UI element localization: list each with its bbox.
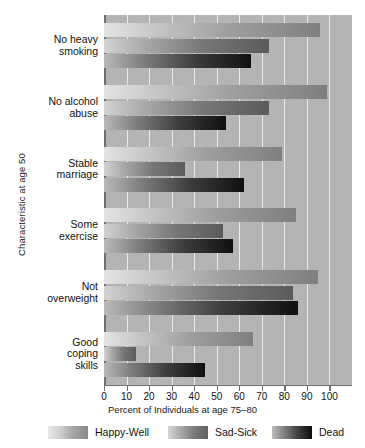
x-tick-label-60: 60 (234, 391, 245, 402)
x-tick-label-50: 50 (211, 391, 222, 402)
bar-group (104, 208, 352, 253)
gridline-90 (307, 15, 308, 385)
bar-group (104, 23, 352, 68)
bar-group (104, 147, 352, 192)
x-tick-label-10: 10 (121, 391, 132, 402)
category-label-line: overweight (10, 293, 98, 305)
y-axis-line (104, 15, 106, 385)
bar-sad-sick (104, 286, 293, 300)
gridline-100 (329, 15, 330, 385)
bar-happy-well (104, 332, 253, 346)
gridline-30 (172, 15, 173, 385)
bar-sad-sick (104, 101, 269, 115)
bar-group (104, 270, 352, 315)
category-label-line: marriage (10, 169, 98, 181)
bar-sad-sick (104, 347, 136, 361)
legend-item-sad-sick[interactable]: Sad-Sick (168, 424, 257, 440)
legend-swatch-sad-sick (168, 426, 208, 439)
bar-happy-well (104, 208, 296, 222)
x-tick-label-90: 90 (301, 391, 312, 402)
x-tick-label-70: 70 (256, 391, 267, 402)
gridline-40 (194, 15, 195, 385)
legend-label: Dead (319, 426, 344, 438)
gridline-60 (239, 15, 240, 385)
x-tick-label-40: 40 (189, 391, 200, 402)
bar-dead (104, 54, 251, 68)
legend-item-dead[interactable]: Dead (272, 424, 344, 440)
legend-item-happy-well[interactable]: Happy-Well (48, 424, 149, 440)
x-axis-title: Percent of Individuals at age 75–80 (0, 404, 365, 415)
bar-group (104, 332, 352, 377)
bar-dead (104, 178, 244, 192)
bar-sad-sick (104, 162, 185, 176)
category-label-line: abuse (10, 108, 98, 120)
category-label-line: Not (10, 281, 98, 293)
x-tick-label-0: 0 (101, 391, 107, 402)
category-label-5: Notoverweight (10, 281, 98, 304)
bar-group (104, 85, 352, 130)
category-label-line: skills (10, 360, 98, 372)
x-axis-tick-labels: 0102030405060708090100 (104, 391, 364, 405)
y-axis-category-labels: No heavysmokingNo alcoholabuseStablemarr… (10, 15, 98, 385)
bar-dead (104, 363, 205, 377)
bar-happy-well (104, 23, 320, 37)
legend-label: Happy-Well (95, 426, 149, 438)
category-label-line: exercise (10, 231, 98, 243)
gridline-50 (217, 15, 218, 385)
legend-swatch-dead (272, 426, 312, 439)
chart-legend: Happy-WellSad-SickDead (0, 424, 365, 444)
x-tick-label-100: 100 (321, 391, 338, 402)
legend-label: Sad-Sick (215, 426, 257, 438)
gridline-80 (284, 15, 285, 385)
category-label-line: smoking (10, 46, 98, 58)
category-label-2: No alcoholabuse (10, 96, 98, 119)
bar-happy-well (104, 85, 327, 99)
category-label-4: Someexercise (10, 219, 98, 242)
bar-dead (104, 116, 226, 130)
plot-area (104, 15, 352, 385)
gridline-10 (127, 15, 128, 385)
chart-figure: Characteristic at age 50 No heavysmoking… (0, 0, 365, 448)
bar-dead (104, 301, 298, 315)
bar-sad-sick (104, 224, 223, 238)
x-tick-label-30: 30 (166, 391, 177, 402)
bar-sad-sick (104, 39, 269, 53)
bar-dead (104, 239, 233, 253)
category-label-1: No heavysmoking (10, 34, 98, 57)
category-label-3: Stablemarriage (10, 158, 98, 181)
bar-happy-well (104, 147, 282, 161)
category-label-6: Goodcopingskills (10, 337, 98, 372)
x-tick-label-20: 20 (144, 391, 155, 402)
gridline-20 (149, 15, 150, 385)
category-label-line: No alcohol (10, 96, 98, 108)
bar-happy-well (104, 270, 318, 284)
legend-swatch-happy-well (48, 426, 88, 439)
gridline-70 (262, 15, 263, 385)
x-tick-label-80: 80 (279, 391, 290, 402)
